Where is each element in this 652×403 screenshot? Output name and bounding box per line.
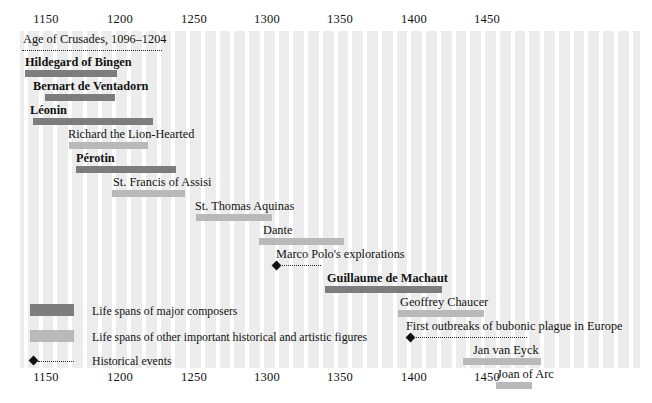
axis-tick-1350: 1350 <box>327 370 353 385</box>
timeline-row-age-of-crusades[interactable]: Age of Crusades, 1096–1204 <box>0 32 652 56</box>
event-dotted-line-age-of-crusades <box>22 50 162 51</box>
lifespan-bar-perotin[interactable] <box>76 166 176 173</box>
timeline-row-st-thomas-aquinas[interactable]: St. Thomas Aquinas <box>0 199 652 223</box>
legend-label-composers: Life spans of major composers <box>92 304 237 319</box>
timeline-row-bernart-de-ventadorn[interactable]: Bernart de Ventadorn <box>0 79 652 103</box>
timeline-row-perotin[interactable]: Pérotin <box>0 151 652 175</box>
timeline-row-leonin[interactable]: Léonin <box>0 103 652 127</box>
legend: Life spans of major composers Life spans… <box>0 296 652 366</box>
axis-tick-1250: 1250 <box>181 12 207 27</box>
axis-tick-1450: 1450 <box>474 12 500 27</box>
lifespan-bar-richard-the-lion-hearted[interactable] <box>69 142 148 149</box>
axis-tick-1300: 1300 <box>254 12 280 27</box>
row-label-richard-the-lion-hearted: Richard the Lion-Hearted <box>68 128 194 140</box>
legend-diamond-icon <box>29 356 39 366</box>
row-label-marco-polo-explorations: Marco Polo's explorations <box>276 248 405 260</box>
axis-tick-1300: 1300 <box>254 370 280 385</box>
axis-tick-1400: 1400 <box>401 12 427 27</box>
row-label-hildegard-of-bingen: Hildegard of Bingen <box>25 56 132 68</box>
lifespan-bar-dante[interactable] <box>259 238 344 245</box>
axis-top: 1150120012501300135014001450 <box>0 12 652 28</box>
timeline-row-hildegard-of-bingen[interactable]: Hildegard of Bingen <box>0 55 652 79</box>
event-dotted-line-marco-polo-explorations <box>279 265 321 266</box>
axis-bottom: 1150120012501300135014001450 <box>0 370 652 386</box>
timeline-row-richard-the-lion-hearted[interactable]: Richard the Lion-Hearted <box>0 127 652 151</box>
legend-swatch-composer-icon <box>30 304 74 316</box>
timeline-row-st-francis-of-assisi[interactable]: St. Francis of Assisi <box>0 175 652 199</box>
row-label-leonin: Léonin <box>30 104 67 116</box>
legend-label-events: Historical events <box>92 354 172 369</box>
row-label-perotin: Pérotin <box>76 152 115 164</box>
axis-tick-1150: 1150 <box>33 370 58 385</box>
axis-tick-1200: 1200 <box>107 370 133 385</box>
timeline-chart: 1150120012501300135014001450 Age of Crus… <box>0 0 652 403</box>
row-label-guillaume-de-machaut: Guillaume de Machaut <box>327 272 448 284</box>
row-label-st-francis-of-assisi: St. Francis of Assisi <box>113 176 211 188</box>
timeline-row-marco-polo-explorations[interactable]: Marco Polo's explorations <box>0 247 652 271</box>
row-label-age-of-crusades: Age of Crusades, 1096–1204 <box>23 33 166 45</box>
row-label-st-thomas-aquinas: St. Thomas Aquinas <box>195 200 294 212</box>
lifespan-bar-hildegard-of-bingen[interactable] <box>25 70 117 77</box>
axis-tick-1350: 1350 <box>327 12 353 27</box>
lifespan-bar-bernart-de-ventadorn[interactable] <box>45 94 115 101</box>
timeline-row-dante[interactable]: Dante <box>0 223 652 247</box>
lifespan-bar-st-francis-of-assisi[interactable] <box>112 190 185 197</box>
legend-swatch-figure-icon <box>30 330 74 342</box>
axis-tick-1250: 1250 <box>181 370 207 385</box>
row-label-dante: Dante <box>263 224 292 236</box>
axis-tick-1150: 1150 <box>33 12 58 27</box>
legend-dotted-line-icon <box>38 361 74 362</box>
axis-tick-1450: 1450 <box>474 370 500 385</box>
timeline-row-guillaume-de-machaut[interactable]: Guillaume de Machaut <box>0 271 652 295</box>
legend-label-figures: Life spans of other important historical… <box>92 330 367 345</box>
lifespan-bar-leonin[interactable] <box>33 118 153 125</box>
lifespan-bar-st-thomas-aquinas[interactable] <box>196 214 272 221</box>
row-label-bernart-de-ventadorn: Bernart de Ventadorn <box>33 80 148 92</box>
lifespan-bar-guillaume-de-machaut[interactable] <box>325 286 442 293</box>
axis-tick-1400: 1400 <box>401 370 427 385</box>
axis-tick-1200: 1200 <box>107 12 133 27</box>
